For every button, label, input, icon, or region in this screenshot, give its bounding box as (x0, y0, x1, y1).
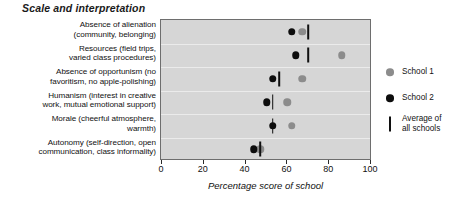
category-label: Absence of alienation(community, belongi… (0, 20, 156, 39)
category-label-line: Morale (cheerful atmosphere, (0, 114, 156, 124)
legend-label: School 2 (402, 93, 434, 103)
x-axis-tick-label: 20 (198, 164, 208, 174)
school1-point (298, 28, 306, 36)
legend-label: Average of all schools (402, 114, 441, 133)
school2-point (269, 122, 277, 130)
school2-point (288, 28, 296, 36)
category-label: Absence of opportunism (nofavoritism, no… (0, 67, 156, 86)
category-label: Humanism (interest in creativework, mutu… (0, 91, 156, 110)
category-label-line: favoritism, no apple-polishing) (0, 77, 156, 87)
category-label-line: communication, class informality) (0, 147, 156, 157)
category-label-line: warmth) (0, 124, 156, 134)
gridline (161, 138, 370, 139)
category-label: Morale (cheerful atmosphere,warmth) (0, 114, 156, 133)
legend-item: Average of all schools (386, 115, 464, 133)
school2-point (263, 99, 271, 107)
average-marker (278, 71, 280, 86)
category-axis-labels: Absence of alienation(community, belongi… (0, 19, 156, 160)
x-axis-tick-label: 40 (240, 164, 250, 174)
school2-point (292, 52, 300, 60)
gray-dot-icon (386, 68, 394, 76)
school2-point (269, 75, 277, 83)
school2-point (250, 146, 258, 154)
black-dot-icon (386, 94, 394, 102)
category-label-line: Absence of opportunism (no (0, 67, 156, 77)
chart-figure: Scale and interpretation Absence of alie… (0, 0, 464, 203)
category-label-line: Resources (field trips, (0, 44, 156, 54)
category-label: Autonomy (self-direction, opencommunicat… (0, 138, 156, 157)
school1-point (298, 75, 306, 83)
category-label-line: Absence of alienation (0, 20, 156, 30)
x-axis-tick-label: 80 (323, 164, 333, 174)
school1-point (338, 52, 346, 60)
category-label-line: Humanism (interest in creative (0, 91, 156, 101)
category-label: Resources (field trips,varied class proc… (0, 44, 156, 63)
average-marker (272, 95, 274, 110)
average-marker (308, 24, 310, 39)
category-label-line: (community, belonging) (0, 30, 156, 40)
vertical-bar-icon (389, 117, 391, 132)
x-axis-tick-label: 60 (281, 164, 291, 174)
category-label-line: Autonomy (self-direction, open (0, 138, 156, 148)
category-label-line: varied class procedures) (0, 53, 156, 63)
legend-item: School 2 (386, 89, 464, 107)
school1-point (284, 99, 292, 107)
school1-point (288, 122, 296, 130)
x-axis-tick-label: 0 (158, 164, 163, 174)
average-marker (259, 142, 261, 157)
page-title: Scale and interpretation (22, 2, 145, 14)
x-axis-tick-label: 100 (362, 164, 377, 174)
x-axis: 020406080100 (160, 160, 371, 182)
legend-item: School 1 (386, 63, 464, 81)
gridline (161, 44, 370, 45)
x-axis-title: Percentage score of school (160, 180, 371, 191)
legend-label: School 1 (402, 67, 434, 77)
gridline (161, 114, 370, 115)
gridline (161, 91, 370, 92)
gridline (161, 67, 370, 68)
category-label-line: work, mutual emotional support) (0, 100, 156, 110)
plot-area (160, 19, 371, 160)
average-marker (308, 48, 310, 63)
